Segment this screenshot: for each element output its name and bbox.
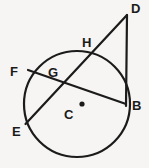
tangent-line-D-B bbox=[126, 15, 127, 106]
center-point-dot bbox=[79, 101, 84, 106]
point-label-D: D bbox=[131, 2, 140, 15]
geometry-figure: D H F G C E B bbox=[0, 0, 149, 168]
point-label-F: F bbox=[10, 65, 18, 78]
main-circle bbox=[24, 51, 130, 157]
point-label-H: H bbox=[82, 36, 91, 49]
secant-line-D-E bbox=[26, 15, 128, 124]
chord-line-F-B bbox=[28, 70, 126, 104]
point-label-E: E bbox=[12, 125, 21, 138]
point-label-C: C bbox=[64, 108, 73, 121]
point-label-B: B bbox=[132, 99, 141, 112]
geometry-canvas bbox=[0, 0, 149, 168]
point-label-G: G bbox=[48, 66, 58, 79]
